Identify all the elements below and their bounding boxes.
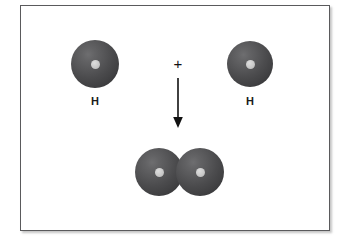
atom-hydrogen-right [227,41,273,87]
molecule-atom-hydrogen-right [176,148,224,196]
plus-icon: + [168,54,188,74]
down-arrow-icon [165,78,191,130]
diagram-root: H H + [0,0,350,246]
atom-label-hydrogen-left: H [83,95,107,107]
diagram-canvas: H H + [0,0,350,246]
atom-label-hydrogen-right: H [238,95,262,107]
atom-hydrogen-left [71,40,119,88]
down-arrow-svg [165,78,191,130]
